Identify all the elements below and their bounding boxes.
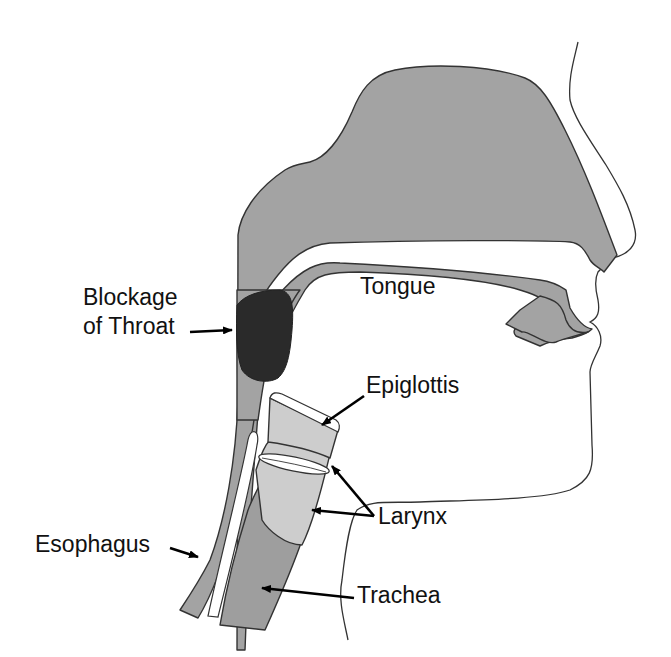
throat-anatomy-diagram: Tongue Blockage of Throat Epiglottis Lar… <box>0 0 671 657</box>
larynx-label: Larynx <box>378 503 448 529</box>
trachea-label: Trachea <box>357 582 441 608</box>
throat-blockage <box>237 290 293 381</box>
epiglottis-label: Epiglottis <box>366 372 459 398</box>
blockage-arrow <box>190 330 232 332</box>
tongue-label: Tongue <box>360 273 435 299</box>
larynx-arrow-lower <box>312 510 374 516</box>
blockage-label-line1: Blockage <box>83 284 178 310</box>
epiglottis-arrow <box>322 396 364 425</box>
blockage-label-line2: of Throat <box>83 313 175 339</box>
esophagus-arrow <box>170 548 198 557</box>
esophagus-label: Esophagus <box>35 531 150 557</box>
larynx-arrow-upper <box>332 466 374 516</box>
